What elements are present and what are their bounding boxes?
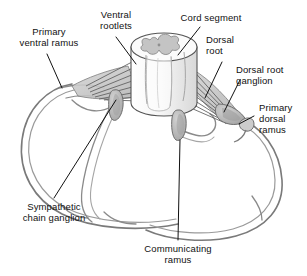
label-line: Dorsal xyxy=(206,34,234,45)
leader-communicating-ramus xyxy=(178,140,180,240)
label-line: chain ganglion xyxy=(23,212,86,223)
label-communicating-ramus: Communicatingramus xyxy=(128,243,228,265)
label-line: root xyxy=(206,45,223,56)
label-line: ramus xyxy=(165,254,192,265)
sympathetic-chain-ganglion xyxy=(109,90,124,121)
label-line: Communicating xyxy=(144,243,211,254)
label-ventral-rootlets: Ventralrootlets xyxy=(85,9,147,31)
cord-inner-column xyxy=(146,56,171,111)
label-line: ganglion xyxy=(236,75,273,86)
label-primary-ventral-ramus: Primaryventral ramus xyxy=(5,26,93,48)
label-line: Dorsal root xyxy=(236,64,284,75)
dorsal-ramus-loop-outer xyxy=(146,118,282,240)
label-line: Sympathetic xyxy=(27,201,80,212)
leader-sympathetic-chain-ganglion xyxy=(54,100,116,198)
cord-segment xyxy=(131,33,197,116)
communicating-ramus-ganglion xyxy=(172,110,187,141)
label-dorsal-root: Dorsalroot xyxy=(206,34,256,56)
leader-primary-ventral-ramus xyxy=(47,54,62,88)
label-cord-segment: Cord segment xyxy=(171,12,251,23)
ventral-chain-arc xyxy=(72,100,112,111)
label-sympathetic-chain-ganglion: Sympatheticchain ganglion xyxy=(2,201,106,223)
label-line: dorsal xyxy=(259,113,285,124)
central-canal xyxy=(158,44,161,47)
label-line: Primary xyxy=(259,102,292,113)
lower-right-hook xyxy=(252,196,262,220)
label-line: ventral ramus xyxy=(20,37,79,48)
label-line: Cord segment xyxy=(181,12,242,23)
label-line: ramus xyxy=(259,124,286,135)
ventral-root-group xyxy=(72,60,140,101)
label-line: Ventral xyxy=(101,9,131,20)
dorsal-ramus-loop-inner xyxy=(150,124,275,233)
label-dorsal-root-ganglion: Dorsal rootganglion xyxy=(236,64,307,86)
label-primary-dorsal-ramus: Primarydorsalramus xyxy=(259,102,307,135)
primary-dorsal-ramus-branch xyxy=(234,130,246,142)
label-line: Primary xyxy=(32,26,65,37)
label-line: rootlets xyxy=(100,20,132,31)
